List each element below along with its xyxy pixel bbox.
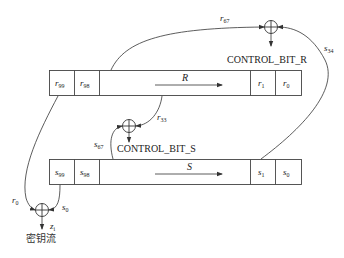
label-r67: r67 [220,14,230,24]
xor-top [265,21,278,34]
diagram-lines [0,0,344,258]
keystream-label: 密钥流 [26,234,56,244]
xor-middle [123,120,136,133]
register-s-name: S [187,162,192,172]
label-s34: s34 [324,44,334,54]
cell-s1: s1 [258,168,265,178]
r0-line [25,96,58,210]
cell-s0: s0 [283,168,290,178]
control-bit-s-label: CONTROL_BIT_S [117,144,196,154]
register-r-name: R [182,73,188,83]
diagram-canvas: r99 r98 R r1 r0 s99 s98 S s1 s0 r67 s34 … [0,0,344,258]
s34-line [261,27,328,159]
cell-s99: s99 [55,168,65,178]
label-s0: s0 [62,203,69,213]
label-r33: r33 [157,113,167,123]
label-s67: s67 [94,140,104,150]
s0-line [49,185,60,210]
cell-r1: r1 [258,79,265,89]
cell-s98: s98 [80,168,90,178]
cell-r0: r0 [283,79,290,89]
cell-r98: r98 [80,79,90,89]
label-zi: zi [50,222,55,232]
xor-bottom [36,204,49,217]
cell-r99: r99 [55,79,65,89]
control-bit-r-label: CONTROL_BIT_R [227,55,307,65]
label-r0: r0 [12,196,19,206]
